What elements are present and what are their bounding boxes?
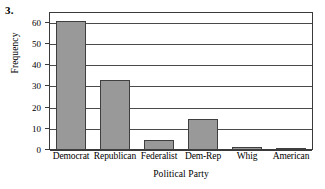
x-axis-title: Political Party [49,169,313,179]
y-axis-tick-label: 40 [32,61,41,70]
gridline [50,86,312,87]
gridline [50,65,312,66]
x-axis-tick-labels: DemocratRepublicanFederalistDem-RepWhigA… [49,151,313,165]
y-axis-tick-label: 10 [32,124,41,133]
x-axis-tick-label: American [261,151,321,162]
gridline [50,44,312,45]
y-axis-tick-label: 60 [32,18,41,27]
gridlines [50,13,312,149]
y-axis-tick-label: 20 [32,103,41,112]
bar-chart-figure: 3. Frequency 0102030405060 DemocratRepub… [0,0,325,189]
gridline [50,108,312,109]
plot-area [49,12,313,150]
y-axis-tick-label: 30 [32,82,41,91]
y-axis-tick-label: 50 [32,39,41,48]
gridline [50,23,312,24]
y-axis-tick-labels: 0102030405060 [0,12,45,150]
gridline [50,129,312,130]
